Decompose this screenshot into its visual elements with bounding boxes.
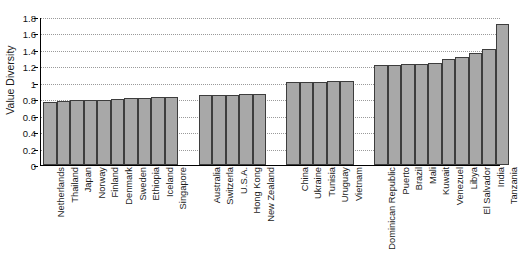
y-axis-tick-mark [34,51,38,52]
bar [327,81,341,165]
x-axis-tick-label: Sweden [136,167,150,201]
x-axis-tick-label: U.S.A. [237,167,251,194]
bar [428,63,442,165]
bar [313,82,327,165]
y-axis-tick-mark [34,166,38,167]
bar [226,95,240,165]
y-axis-tick-mark [34,133,38,134]
bar [415,64,429,165]
x-axis-tick-label: Venezuel [453,167,467,205]
y-axis-tick-mark [34,18,38,19]
x-axis-tick-label: Tanzania [507,167,521,204]
y-axis-tick-mark [34,100,38,101]
bar [212,95,226,165]
y-axis-tick-labels: 00.20.40.60.811.21.41.61.8 [14,18,38,166]
x-axis-tick-label: Ukraine [311,167,325,199]
x-axis-tick-label: Japan [81,167,95,192]
bar [165,97,179,165]
bar [84,100,98,165]
bar [340,81,354,165]
bar [482,49,496,165]
bar [388,65,402,165]
bar [111,99,125,165]
bar [57,101,71,165]
bar [286,82,300,165]
x-axis-tick-label: India [494,167,508,187]
x-axis-tick-label: Denmark [122,167,136,205]
y-axis-tick-mark [34,150,38,151]
bar [43,102,57,165]
x-axis-tick-label: Singapore [176,167,190,209]
x-axis-tick-labels: NetherlandsThailandJapanNorwayFinlandDen… [40,167,500,271]
y-axis-tick-mark [34,117,38,118]
bar [469,53,483,165]
x-axis-tick-label: Brazil [412,167,426,190]
x-axis-tick-label: Hong Kong [250,167,264,214]
bar [253,94,267,165]
bar [239,94,253,165]
bar [199,95,213,165]
bar [124,98,138,165]
bar [97,100,111,165]
x-axis-tick-label: Mali [426,167,440,184]
x-axis-tick-label: Thailand [68,167,82,203]
x-axis-tick-label: Tunisia [325,167,339,197]
x-axis-tick-label: Australia [210,167,224,203]
plot-area [40,18,500,166]
bar [374,65,388,165]
y-axis-tick-mark [34,34,38,35]
x-axis-tick-label: New Zealand [264,167,278,222]
bar [70,100,84,165]
x-axis-tick-label: El Salvador [480,167,494,215]
x-axis-tick-label: Switzerla [223,167,237,205]
x-axis-tick-label: Iceland [163,167,177,197]
bar [496,24,510,165]
x-axis-tick-label: Dominican Republic [385,167,399,250]
x-axis-tick-label: Vietnam [352,167,366,201]
y-axis-tick-mark [34,67,38,68]
bars-layer [41,18,500,165]
x-axis-tick-label: Netherlands [54,167,68,217]
bar [151,97,165,165]
y-axis-tick-mark [34,84,38,85]
bar [455,57,469,165]
x-axis-tick-label: Libya [467,167,481,189]
x-axis-tick-label: Uruguay [338,167,352,202]
x-axis-tick-label: Kuwait [439,167,453,195]
x-axis-tick-label: China [298,167,312,191]
x-axis-tick-label: Ethiopia [149,167,163,201]
x-axis-tick-label: Finland [108,167,122,198]
bar [300,82,314,165]
bar [138,98,152,165]
bar [442,59,456,165]
x-axis-tick-label: Norway [95,167,109,199]
bar [401,64,415,165]
x-axis-tick-label: Puerto [399,167,413,194]
